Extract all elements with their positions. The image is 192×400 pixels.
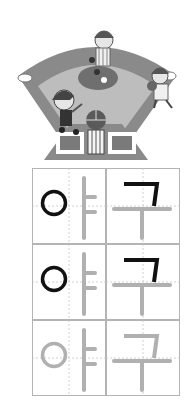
syllable-cell-gu[interactable] — [106, 168, 180, 244]
practice-row — [32, 244, 180, 320]
syllable-cell-ya[interactable] — [32, 168, 106, 244]
baseball-illustration — [0, 0, 192, 160]
practice-row — [32, 320, 180, 396]
ieung-stroke — [43, 192, 66, 215]
syllable-cell-ya[interactable] — [32, 320, 106, 396]
syllable-cell-ya[interactable] — [32, 244, 106, 320]
syllable-cell-gu[interactable] — [106, 244, 180, 320]
syllable-cell-gu[interactable] — [106, 320, 180, 396]
writing-practice-grid — [32, 168, 180, 396]
practice-row — [32, 168, 180, 244]
